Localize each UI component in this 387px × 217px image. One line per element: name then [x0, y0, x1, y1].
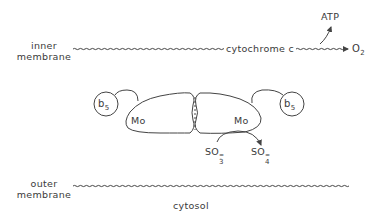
right-mo-label: Mo — [234, 115, 249, 126]
right-b5-label: b5 — [284, 98, 295, 109]
left-mo-label: Mo — [131, 115, 146, 126]
left-b5-linker — [115, 90, 138, 101]
atp-label: ATP — [321, 11, 339, 22]
outer-membrane-label: outer membrane — [16, 178, 72, 200]
inner-membrane-label: inner membrane — [16, 40, 72, 62]
electron-transfer-arrow — [296, 48, 348, 49]
right-mo-domain — [195, 93, 261, 133]
cytochrome-c-label: cytochrome c — [224, 43, 296, 54]
atp-arrow — [320, 27, 331, 44]
sulfate-label: SO=4 — [251, 146, 271, 157]
right-b5-linker — [252, 90, 283, 103]
outer-membrane-line — [73, 185, 349, 186]
left-b5-label: b5 — [98, 98, 109, 109]
inner-membrane-line — [73, 48, 226, 49]
left-mo-domain — [126, 93, 194, 133]
cytosol-label: cytosol — [173, 200, 209, 211]
sulfite-label: SO=3 — [205, 146, 225, 157]
oxygen-label: O2 — [352, 43, 365, 54]
